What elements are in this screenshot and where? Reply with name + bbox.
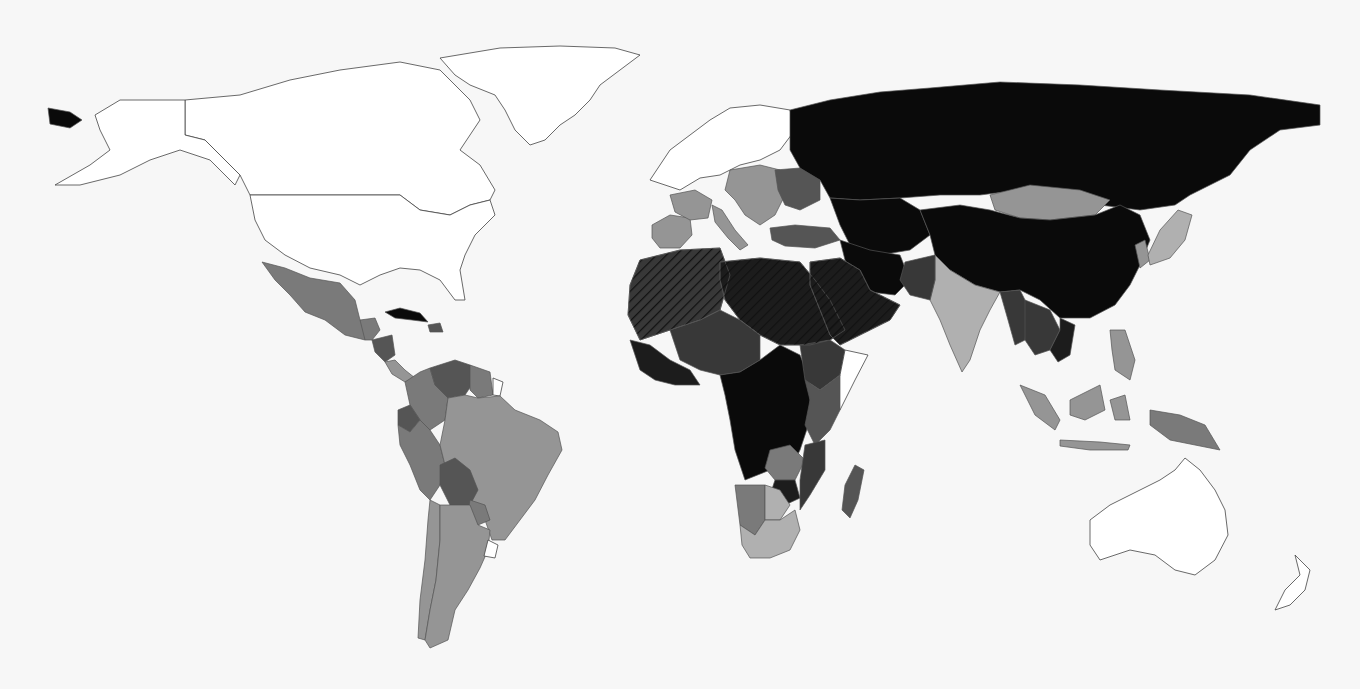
- region-peru: [398, 420, 445, 500]
- region-cuba: [385, 308, 428, 322]
- region-papua-new-guinea: [1150, 410, 1220, 450]
- region-canada: [185, 62, 495, 215]
- region-new-zealand: [1275, 555, 1310, 610]
- region-chukotka: [48, 108, 82, 128]
- region-hispaniola: [428, 323, 443, 332]
- region-australia: [1090, 458, 1228, 575]
- region-honduras-nicaragua: [372, 335, 395, 362]
- region-japan: [1148, 210, 1192, 265]
- region-iberia: [652, 215, 692, 248]
- region-turkey: [770, 225, 840, 248]
- region-mozambique: [800, 440, 825, 510]
- world-choropleth-map: [0, 0, 1360, 689]
- region-france: [670, 190, 712, 220]
- region-pakistan: [900, 255, 935, 300]
- region-indonesia: [1020, 385, 1130, 450]
- region-madagascar: [842, 465, 864, 518]
- region-guyana-suriname: [470, 365, 493, 398]
- region-french-guiana: [493, 378, 503, 396]
- region-philippines: [1110, 330, 1135, 380]
